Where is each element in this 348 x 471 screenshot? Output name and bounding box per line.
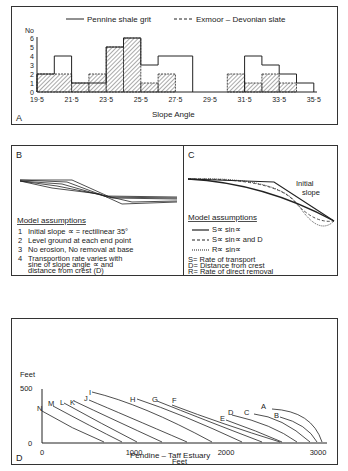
svg-text:5: 5 <box>30 44 34 51</box>
svg-text:500: 500 <box>20 384 33 393</box>
histogram-chart: Pennine shale grit Exmoor – Devonian sla… <box>12 7 339 126</box>
legend-dashed: Exmoor – Devonian slate <box>196 15 286 24</box>
svg-text:D: D <box>228 408 234 417</box>
panel-letter-c: C <box>188 150 195 160</box>
panel-letter-b: B <box>16 150 22 160</box>
svg-text:23·5: 23·5 <box>99 96 113 103</box>
panel-d-profiles: Feet 500 0 0100020003000 Feet NMLK JI <box>11 318 338 465</box>
svg-text:6: 6 <box>30 35 34 42</box>
svg-text:E: E <box>220 414 225 423</box>
svg-text:slope: slope <box>302 188 320 197</box>
assumption-3: No erosion, No removal at base <box>28 245 133 254</box>
svg-text:31·5: 31·5 <box>238 96 252 103</box>
svg-text:S∝ sin∝ and D: S∝ sin∝ and D <box>212 235 263 244</box>
svg-text:G: G <box>152 395 158 404</box>
svg-text:2: 2 <box>18 236 22 245</box>
svg-text:R∝ sin∝: R∝ sin∝ <box>212 245 241 254</box>
svg-text:19·5: 19·5 <box>30 96 44 103</box>
svg-text:3: 3 <box>18 245 22 254</box>
svg-text:K: K <box>70 398 75 407</box>
model-assumptions-heading: Model assumptions <box>17 216 86 225</box>
d-caption: Pendine – Taff Estuary <box>130 451 210 460</box>
svg-text:2: 2 <box>30 71 34 78</box>
svg-text:25·5: 25·5 <box>134 96 148 103</box>
panel-b-diagram: B Model assumptions 1Initial slope ∝ = r… <box>12 146 185 277</box>
svg-text:3000: 3000 <box>310 448 327 457</box>
svg-text:F: F <box>172 396 177 405</box>
panel-b-model: B Model assumptions 1Initial slope ∝ = r… <box>11 145 184 276</box>
svg-text:M: M <box>48 399 54 408</box>
svg-text:27·5: 27·5 <box>168 96 182 103</box>
y-axis-label: No <box>25 27 34 34</box>
svg-text:29·5: 29·5 <box>203 96 217 103</box>
svg-text:0: 0 <box>30 89 34 96</box>
svg-text:21·5: 21·5 <box>65 96 79 103</box>
panel-letter-d: D <box>16 453 23 463</box>
svg-text:33·5: 33·5 <box>272 96 286 103</box>
assumption-4c: distance from crest (D) <box>28 266 104 275</box>
svg-text:4: 4 <box>30 53 34 60</box>
panel-a-histogram: Pennine shale grit Exmoor – Devonian sla… <box>11 6 338 125</box>
svg-text:B: B <box>274 411 279 420</box>
svg-text:A: A <box>261 402 266 411</box>
x-axis-label: Slope Angle <box>152 110 195 119</box>
assumption-1: Initial slope ∝ = rectilinear 35° <box>28 227 128 236</box>
legend-solid: Pennine shale grit <box>87 15 152 24</box>
assumption-2: Level ground at each end point <box>28 236 132 245</box>
panel-c-diagram: C Initial slope Model assumptions S∝ sin… <box>184 146 339 277</box>
svg-text:3: 3 <box>30 62 34 69</box>
svg-text:I: I <box>89 388 91 397</box>
panel-c-model: C Initial slope Model assumptions S∝ sin… <box>183 145 338 276</box>
svg-text:35·5: 35·5 <box>307 96 321 103</box>
svg-text:S∝ sin∝: S∝ sin∝ <box>212 225 241 234</box>
svg-text:4: 4 <box>18 254 22 263</box>
model-assumptions-heading-c: Model assumptions <box>188 213 257 222</box>
svg-text:L: L <box>60 398 64 407</box>
d-y-label: Feet <box>20 370 36 379</box>
initial-slope-label: Initial <box>296 179 314 188</box>
panel-letter-a: A <box>16 113 22 123</box>
svg-text:N: N <box>37 404 42 413</box>
svg-text:H: H <box>130 395 135 404</box>
svg-text:C: C <box>244 408 250 417</box>
svg-text:0: 0 <box>28 439 32 448</box>
svg-text:R= Rate of direct removal: R= Rate of direct removal <box>188 267 274 276</box>
svg-text:1: 1 <box>18 227 22 236</box>
svg-text:2000: 2000 <box>218 448 235 457</box>
profiles-chart: Feet 500 0 0100020003000 Feet NMLK JI <box>12 319 339 466</box>
svg-text:J: J <box>84 394 88 403</box>
svg-text:1: 1 <box>30 80 34 87</box>
svg-text:0: 0 <box>40 448 44 457</box>
